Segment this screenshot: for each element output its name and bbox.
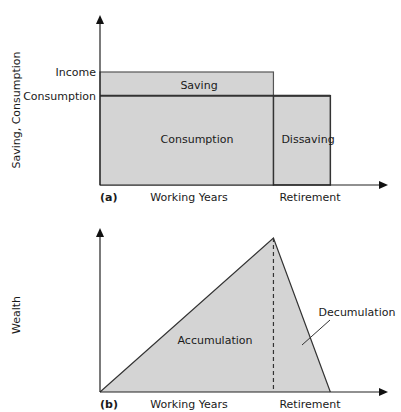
panel-label-b: (b) [100,398,118,411]
x-axis-arrow-a [379,181,388,189]
x-label-working-years-a: Working Years [150,191,228,204]
accumulation-label: Accumulation [178,334,253,347]
y-axis-label-b: Wealth [10,296,23,334]
decumulation-label: Decumulation [319,306,396,319]
wealth-area [100,238,330,392]
x-label-retirement-a: Retirement [279,191,341,204]
x-label-retirement-b: Retirement [279,398,341,411]
life-cycle-diagram: Saving, Consumption Income Consumption S… [0,0,401,412]
dissaving-label: Dissaving [281,133,334,146]
y-tick-income: Income [56,66,97,79]
x-label-working-years-b: Working Years [150,398,228,411]
panel-b: Wealth Accumulation Decumulation (b) Wor… [10,228,395,411]
consumption-label: Consumption [161,133,234,146]
y-axis-label-a: Saving, Consumption [10,51,23,168]
saving-label: Saving [180,79,217,92]
panel-label-a: (a) [100,191,117,204]
x-axis-arrow-b [379,388,388,396]
y-tick-consumption: Consumption [23,90,96,103]
panel-a: Saving, Consumption Income Consumption S… [10,15,388,204]
y-axis-arrow-a [96,15,104,24]
y-axis-arrow-b [96,228,104,237]
